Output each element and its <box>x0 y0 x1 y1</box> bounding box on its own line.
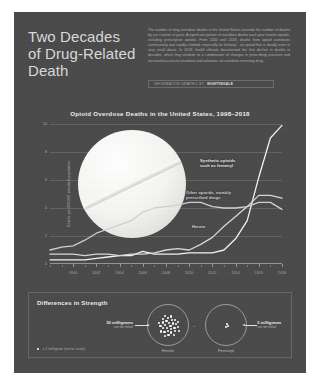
dose-grain-dot <box>162 327 164 329</box>
byline-author: Nightingale <box>207 82 233 86</box>
x-axis-tick <box>166 264 167 267</box>
dose-grain-dot <box>162 318 164 320</box>
x-axis-tick <box>236 264 237 267</box>
x-axis-tick-label: 2018 <box>278 271 286 275</box>
dose-grain-dot <box>168 322 170 324</box>
dose-grain-dot <box>167 334 169 336</box>
chart-series-label: Synthetic opioids such as fentanyl <box>200 158 235 168</box>
dose-grain-dot <box>163 331 165 333</box>
chart-gridline <box>50 236 282 237</box>
strength-comparison-card: Differences in Strength Heroin Fentanyl … <box>28 292 292 358</box>
dose-grain-dot <box>158 322 160 324</box>
x-axis-tick <box>189 264 190 267</box>
x-axis-tick-label: 2014 <box>231 271 239 275</box>
chart-title: Opioid Overdose Deaths in the United Sta… <box>28 110 292 117</box>
x-axis-tick-label: 2002 <box>92 271 100 275</box>
x-axis-tick <box>108 265 109 267</box>
x-axis-tick <box>201 265 202 267</box>
fentanyl-dose-callout: 3 milligrams can be lethal <box>257 320 303 331</box>
x-axis-tick-label: 2006 <box>139 271 147 275</box>
dose-grain-dot <box>170 315 172 317</box>
y-axis-tick-label: 0 <box>45 262 47 266</box>
y-axis-tick-label: 8 <box>45 150 47 154</box>
dose-grain-dot <box>177 326 179 328</box>
dose-grain-dot <box>173 327 175 329</box>
x-axis-tick <box>259 264 260 267</box>
x-axis-tick <box>62 265 63 267</box>
x-axis-tick <box>131 265 132 267</box>
dose-grain-dot <box>167 317 169 319</box>
x-axis-tick <box>178 265 179 267</box>
dose-grain-dot <box>171 319 173 321</box>
dose-grain-dot <box>164 335 166 337</box>
x-axis-tick-label: 2012 <box>208 271 216 275</box>
chart-gridline <box>50 152 282 153</box>
byline-prefix: Information graphic by <box>154 82 204 86</box>
fentanyl-leader-arrow-icon <box>242 324 245 326</box>
dose-grain-dot <box>170 328 172 330</box>
y-axis-tick-label: 4 <box>45 206 47 210</box>
chart-series-label: Other opioids, notably prescribed drugs <box>186 190 231 200</box>
heroin-dose-sub: can be lethal <box>87 325 133 330</box>
x-axis-tick <box>85 265 86 267</box>
dose-grain-dot <box>164 324 166 326</box>
strength-title: Differences in Strength <box>37 300 108 306</box>
dose-grain-dot <box>172 322 174 324</box>
chart-line-series <box>50 202 282 250</box>
x-axis-tick-label: 2004 <box>115 271 123 275</box>
dose-grain-dot <box>177 321 179 323</box>
strength-legend: = 1 milligram (not to scale) <box>37 347 85 351</box>
dose-grain-dot <box>178 330 180 332</box>
x-axis-tick-label: 2000 <box>69 271 77 275</box>
chart-gridline <box>50 180 282 181</box>
fentanyl-dose-circle <box>205 304 247 346</box>
standfirst-paragraph: The number of drug overdose deaths in th… <box>148 28 290 64</box>
chart-line-series <box>50 195 282 255</box>
chart-plot-area: Deaths per 100,000 standard population 0… <box>50 124 282 264</box>
y-axis-tick-label: 6 <box>45 178 47 182</box>
x-axis-tick <box>282 264 283 267</box>
poster-header: Two Decades of Drug-Related Death The nu… <box>14 12 306 104</box>
page-title: Two Decades of Drug-Related Death <box>28 28 148 79</box>
y-axis-tick-label: 10 <box>43 122 47 126</box>
chart-gridline <box>50 124 282 125</box>
legend-dot-icon <box>37 348 39 350</box>
opioid-chart-card: Opioid Overdose Deaths in the United Sta… <box>28 110 292 282</box>
chart-series-lines <box>50 124 282 264</box>
comparison-arrow-icon: → <box>192 323 196 328</box>
heroin-dose-circle <box>147 304 189 346</box>
dose-grain-dot <box>169 325 171 327</box>
x-axis-tick <box>224 265 225 267</box>
heroin-dose-amount: 30 milligrams <box>106 320 133 325</box>
x-axis-tick <box>73 264 74 267</box>
dose-grain-dot <box>167 330 169 332</box>
x-axis-tick <box>154 265 155 267</box>
dose-grain-dot <box>162 321 164 323</box>
dose-grain-dot <box>160 330 162 332</box>
x-axis-tick <box>50 265 51 267</box>
chart-series-label: Heroin <box>192 224 205 229</box>
legend-label: = 1 milligram (not to scale) <box>42 347 85 351</box>
fentanyl-caption: Fentanyl <box>205 348 247 353</box>
dose-grain-dot <box>225 326 227 328</box>
x-axis-tick <box>212 264 213 267</box>
dose-grain-dot <box>174 330 176 332</box>
x-axis-tick-label: 2008 <box>162 271 170 275</box>
x-axis-tick <box>120 264 121 267</box>
x-axis-tick-label: 2010 <box>185 271 193 275</box>
dose-grain-dot <box>166 327 168 329</box>
chart-gridline <box>50 208 282 209</box>
fentanyl-dose-amount: 3 milligrams <box>257 320 281 325</box>
x-axis-tick-label: 2016 <box>255 271 263 275</box>
y-axis-tick-label: 2 <box>45 234 47 238</box>
heroin-caption: Heroin <box>147 348 189 353</box>
fentanyl-leader-line <box>245 325 257 326</box>
x-axis-tick <box>143 264 144 267</box>
dose-grain-dot <box>174 319 176 321</box>
dose-grain-dot <box>165 320 167 322</box>
heroin-leader-arrow-icon <box>147 324 150 326</box>
poster: Two Decades of Drug-Related Death The nu… <box>14 12 306 373</box>
dose-grain-dot <box>170 331 172 333</box>
x-axis-tick <box>270 265 271 267</box>
x-axis-tick <box>247 265 248 267</box>
